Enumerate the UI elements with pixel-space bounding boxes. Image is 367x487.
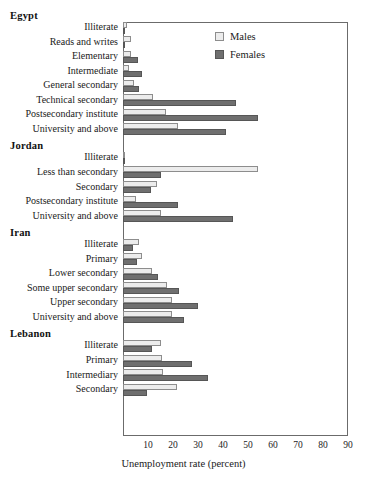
x-tick-label: 50 [236, 440, 260, 450]
country-title-egypt: Egypt [10, 10, 38, 21]
category-label: University and above [0, 210, 118, 221]
category-label: Some upper secondary [0, 282, 118, 293]
category-label: Less than secondary [0, 166, 118, 177]
category-label: Postsecondary institute [0, 108, 118, 119]
bar-females [123, 346, 152, 352]
bar-females [123, 28, 125, 34]
bar-females [123, 100, 236, 106]
bar-females [123, 390, 147, 396]
bar-females [123, 187, 151, 193]
bar-females [123, 71, 142, 77]
x-tick-label: 70 [286, 440, 310, 450]
x-tick-label: 20 [161, 440, 185, 450]
bar-females [123, 129, 226, 135]
bar-females [123, 303, 198, 309]
legend-label-males: Males [230, 31, 256, 42]
bar-females [123, 375, 208, 381]
legend-swatch-females-icon [215, 50, 224, 59]
bar-females [123, 259, 137, 265]
category-label: Elementary [0, 50, 118, 61]
category-label: Technical secondary [0, 94, 118, 105]
bar-females [123, 202, 178, 208]
bar-females [123, 288, 179, 294]
bar-females [123, 361, 192, 367]
x-tick-label: 10 [136, 440, 160, 450]
bar-females [123, 86, 139, 92]
x-tick-label: 30 [186, 440, 210, 450]
x-tick-label: 90 [336, 440, 360, 450]
category-label: Intermediate [0, 65, 118, 76]
category-label: Reads and writes [0, 36, 118, 47]
x-axis-title: Unemployment rate (percent) [0, 458, 367, 469]
category-label: University and above [0, 123, 118, 134]
bar-females [123, 216, 233, 222]
country-title-iran: Iran [10, 227, 31, 238]
x-tick-label: 80 [311, 440, 335, 450]
category-label: Intermediary [0, 369, 118, 380]
category-label: University and above [0, 311, 118, 322]
category-label: Illiterate [0, 151, 118, 162]
legend-swatch-males-icon [215, 32, 224, 41]
category-label: General secondary [0, 79, 118, 90]
category-label: Upper secondary [0, 296, 118, 307]
legend-label-females: Females [230, 49, 265, 60]
chart-legend: Males Females [215, 27, 265, 63]
category-label: Postsecondary institute [0, 195, 118, 206]
x-tick-label: 40 [211, 440, 235, 450]
category-label: Secondary [0, 383, 118, 394]
bar-females [123, 172, 161, 178]
category-label: Lower secondary [0, 267, 118, 278]
country-title-jordan: Jordan [10, 140, 43, 151]
bar-females [123, 274, 158, 280]
category-label: Illiterate [0, 238, 118, 249]
bar-females [123, 57, 138, 63]
category-label: Primary [0, 253, 118, 264]
legend-item-males: Males [215, 27, 265, 45]
bar-females [123, 158, 125, 164]
bar-females [123, 115, 258, 121]
unemployment-by-education-chart: Males Females EgyptIlliterateReads and w… [0, 0, 367, 487]
category-label: Illiterate [0, 21, 118, 32]
bar-females [123, 42, 125, 48]
category-label: Primary [0, 354, 118, 365]
country-title-lebanon: Lebanon [10, 328, 51, 339]
legend-item-females: Females [215, 45, 265, 63]
category-label: Illiterate [0, 339, 118, 350]
x-tick-label: 60 [261, 440, 285, 450]
bar-females [123, 317, 184, 323]
category-label: Secondary [0, 181, 118, 192]
bar-females [123, 245, 133, 251]
